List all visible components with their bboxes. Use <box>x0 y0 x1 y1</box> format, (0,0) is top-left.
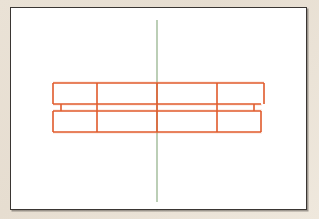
drawing-canvas <box>11 8 306 209</box>
line-drawing-svg <box>11 8 306 209</box>
upper-rail-band <box>53 83 264 104</box>
mount-board <box>0 0 319 219</box>
ink-bleed-overlay <box>53 82 264 133</box>
drawing-frame <box>10 7 307 210</box>
bay-dividers <box>97 83 217 132</box>
rail-assembly <box>53 83 264 132</box>
